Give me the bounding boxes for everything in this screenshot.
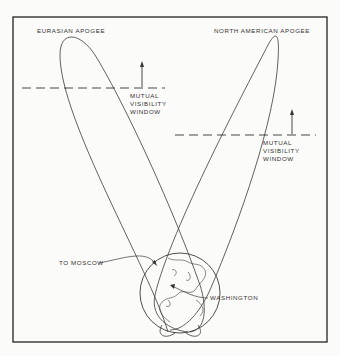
to-moscow-label: TO MOSCOW [59,259,104,266]
earth-globe [140,253,220,333]
north-american-apogee-label: NORTH AMERICAN APOGEE [214,27,310,34]
arrow-head-icon [170,284,175,289]
window-right-line2: VISIBILITY [263,147,300,154]
washington-label: WASHINGTON [210,294,258,301]
diagram-frame [13,17,327,342]
window-left-line1: MUTUAL [130,92,159,99]
window-right-line1: MUTUAL [263,139,292,146]
eurasian-orbit [60,37,204,332]
arrow-head-icon [290,109,294,115]
eurasian-apogee-label: EURASIAN APOGEE [37,27,105,34]
orbit-diagram: EURASIAN APOGEE NORTH AMERICAN APOGEE MU… [0,0,340,356]
moscow-pointer [99,256,155,263]
window-right-line3: WINDOW [263,155,294,162]
window-left-line2: VISIBILITY [130,100,167,107]
arrow-head-icon [140,61,144,67]
window-left-line3: WINDOW [130,108,161,115]
